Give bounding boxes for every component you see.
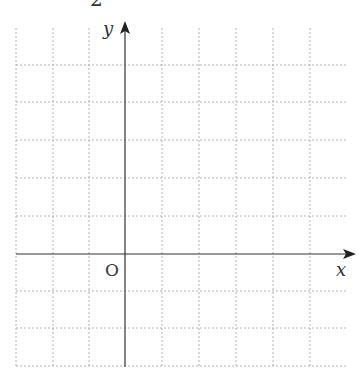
grid xyxy=(16,28,346,367)
y-axis xyxy=(120,21,130,367)
origin-label: O xyxy=(105,262,119,279)
y-axis-label: y xyxy=(103,20,113,38)
coordinate-plane xyxy=(0,0,359,382)
figure-number: 2 xyxy=(90,0,103,9)
x-axis-label: x xyxy=(336,261,346,279)
x-axis xyxy=(16,249,356,259)
